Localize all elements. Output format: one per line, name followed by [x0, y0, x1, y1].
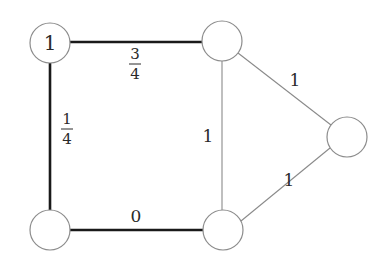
- edge-a-b-denominator: 4: [130, 65, 140, 83]
- edge-e-c-weight: 1: [284, 170, 295, 190]
- node-e: [203, 210, 243, 250]
- edge-a-b-numerator: 3: [130, 45, 140, 63]
- edge-a-d-denominator: 4: [62, 130, 72, 148]
- edge-b-e-weight: 1: [203, 126, 214, 146]
- edge-d-e-weight: 0: [131, 206, 142, 226]
- node-c: [327, 117, 367, 157]
- edge-b-c: [238, 53, 331, 125]
- node-a-label: 1: [44, 31, 57, 55]
- edge-a-d-numerator: 1: [62, 110, 72, 128]
- node-d: [30, 210, 70, 250]
- graph-diagram: 1 3 4 1 4 0 1 1 1: [0, 0, 392, 264]
- node-b: [202, 21, 242, 61]
- graph-svg: 1 3 4 1 4 0 1 1 1: [0, 0, 392, 264]
- edge-b-c-weight: 1: [290, 70, 301, 90]
